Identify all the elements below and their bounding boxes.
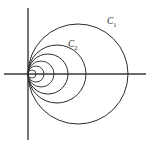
svg-text:C2: C2 bbox=[68, 39, 78, 51]
coaxial-circles-diagram: C1 C2 bbox=[0, 0, 154, 148]
svg-text:C1: C1 bbox=[107, 16, 117, 28]
label-c2: C2 bbox=[68, 39, 78, 51]
label-c1-subscript: 1 bbox=[113, 21, 116, 28]
label-c1: C1 bbox=[107, 16, 117, 28]
axes-group bbox=[4, 8, 146, 140]
figure-container: C1 C2 bbox=[0, 0, 154, 148]
label-c2-subscript: 2 bbox=[74, 44, 77, 51]
